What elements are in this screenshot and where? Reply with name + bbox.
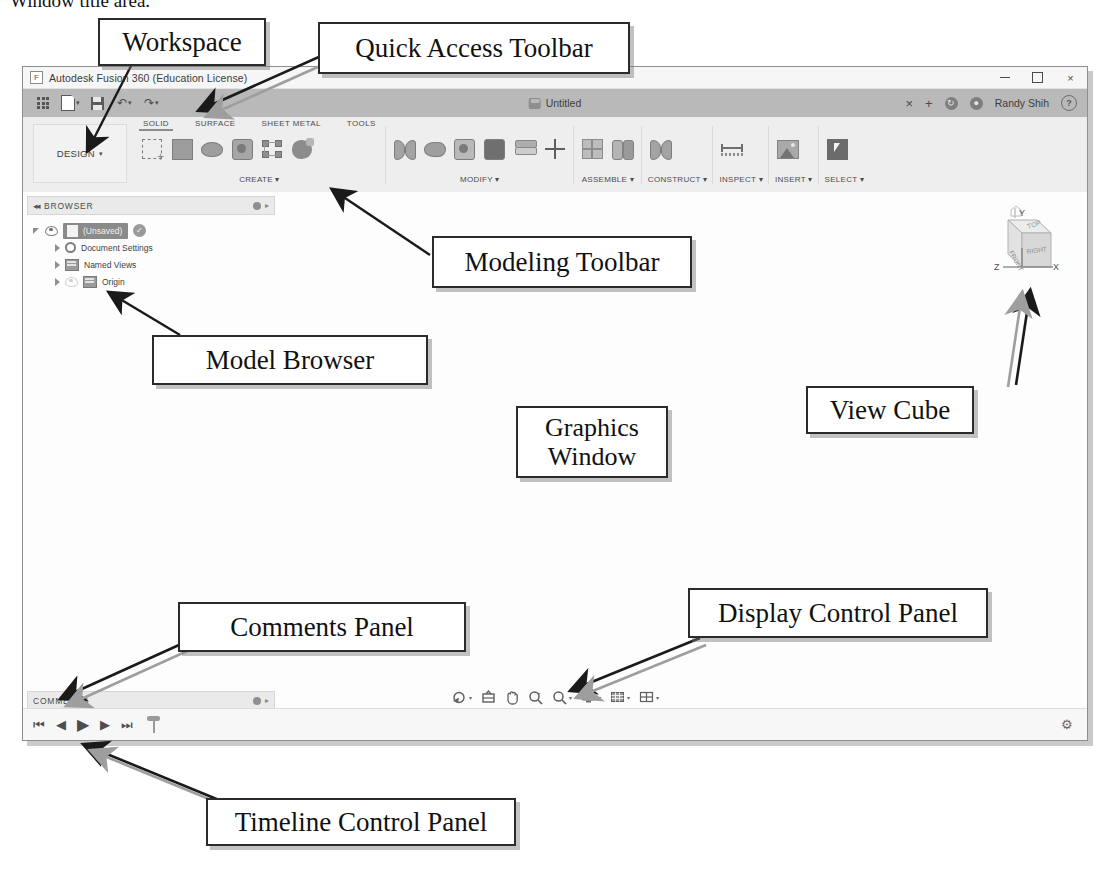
zoom-window-icon[interactable]: + <box>528 690 543 705</box>
expand-arrow-icon[interactable] <box>33 228 39 234</box>
page-cut-heading: Window title area. <box>10 0 150 12</box>
tab-close-icon[interactable]: × <box>906 96 914 111</box>
tab-solid[interactable]: SOLID <box>139 119 173 131</box>
tree-node-document-settings[interactable]: Document Settings <box>33 239 275 256</box>
callout-workspace: Workspace <box>98 18 266 66</box>
tree-node-root[interactable]: (Unsaved) ✓ <box>33 222 275 239</box>
svg-text:+: + <box>537 690 541 696</box>
tree-node-origin[interactable]: Origin <box>33 273 275 290</box>
undo-icon[interactable]: ↶▾ <box>112 93 136 113</box>
extrude-icon[interactable] <box>169 136 195 162</box>
browser-options-icon[interactable] <box>253 202 261 210</box>
pan-icon[interactable] <box>505 690 519 705</box>
assemble-group-label[interactable]: ASSEMBLE ▾ <box>580 172 636 184</box>
app-grid-icon[interactable] <box>31 93 55 113</box>
press-pull-icon[interactable] <box>392 136 418 162</box>
joint-icon[interactable] <box>610 136 636 162</box>
step-back-button[interactable]: ◀ <box>56 717 66 732</box>
new-component-icon[interactable] <box>580 136 606 162</box>
browser-resize-icon[interactable]: ▸ <box>265 201 270 210</box>
folder-icon <box>83 276 97 288</box>
play-button[interactable]: ▶ <box>77 715 89 734</box>
notifications-icon[interactable]: ● <box>970 97 983 110</box>
workspace-label: DESIGN <box>57 148 95 159</box>
root-chip[interactable]: (Unsaved) <box>63 223 128 239</box>
document-tab[interactable]: Untitled <box>529 97 582 109</box>
revolve-icon[interactable] <box>229 136 255 162</box>
move-copy-icon[interactable] <box>542 136 568 162</box>
display-settings-icon[interactable]: ▾ <box>581 690 601 704</box>
select-group-label[interactable]: SELECT ▾ <box>825 172 865 184</box>
look-at-icon[interactable] <box>481 690 496 704</box>
tab-tools[interactable]: TOOLS <box>343 119 380 128</box>
job-status-icon[interactable]: ↻ <box>945 97 958 110</box>
help-icon[interactable]: ? <box>1061 95 1077 111</box>
sketch-create-icon[interactable] <box>139 136 165 162</box>
timeline-marker[interactable] <box>147 716 160 733</box>
browser-tree: (Unsaved) ✓ Document Settings Named View… <box>27 215 275 290</box>
sculpt-form-icon[interactable] <box>289 136 315 162</box>
maximize-button[interactable] <box>1021 67 1054 88</box>
document-tab-label: Untitled <box>546 97 582 109</box>
timeline-settings-gear-icon[interactable]: ⚙ <box>1061 717 1073 732</box>
qat-buttons: ▾ ↶▾ ↷▾ <box>23 93 163 113</box>
new-document-icon[interactable]: ▾ <box>58 93 82 113</box>
insert-image-icon[interactable] <box>775 136 801 162</box>
shell-icon[interactable] <box>452 136 478 162</box>
folder-icon <box>65 259 79 271</box>
viewports-icon[interactable]: ▾ <box>639 690 659 704</box>
visibility-eye-icon[interactable] <box>65 277 78 287</box>
browser-header[interactable]: ◂◂ BROWSER ▸ <box>27 196 275 215</box>
view-cube[interactable]: TOP FRONT RIGHT Z X Y <box>963 204 1059 300</box>
tab-surface[interactable]: SURFACE <box>191 119 240 128</box>
expand-arrow-icon[interactable] <box>55 278 60 286</box>
redo-icon[interactable]: ↷▾ <box>139 93 163 113</box>
create-group-label[interactable]: CREATE ▾ <box>139 172 380 184</box>
offset-plane-icon[interactable] <box>648 136 674 162</box>
callout-graphics-window-line2: Window <box>548 442 637 471</box>
window-controls: × <box>988 67 1087 88</box>
step-forward-button[interactable]: ▶ <box>100 717 110 732</box>
tree-node-origin-label: Origin <box>102 277 125 287</box>
pattern-nodes-icon[interactable] <box>259 136 285 162</box>
construct-icons <box>648 134 708 172</box>
visibility-eye-icon[interactable] <box>45 226 58 236</box>
window-title: Autodesk Fusion 360 (Education License) <box>49 72 247 84</box>
fillet-icon[interactable] <box>422 136 448 162</box>
user-name[interactable]: Randy Shih <box>995 97 1049 109</box>
callout-quick-access-toolbar: Quick Access Toolbar <box>318 22 630 74</box>
loft-icon[interactable] <box>199 136 225 162</box>
callout-display-control-panel: Display Control Panel <box>688 588 988 638</box>
modify-group-label[interactable]: MODIFY ▾ <box>392 172 568 184</box>
close-button[interactable]: × <box>1054 67 1087 88</box>
expand-arrow-icon[interactable] <box>55 244 60 252</box>
insert-group-label[interactable]: INSERT ▾ <box>775 172 813 184</box>
callout-graphics-window: Graphics Window <box>516 406 668 478</box>
modify-icons <box>392 134 568 172</box>
ribbon-groups: SOLID SURFACE SHEET METAL TOOLS CREATE ▾ <box>133 117 1087 193</box>
ribbon-group-assemble: ASSEMBLE ▾ <box>574 117 642 193</box>
go-to-beginning-button[interactable]: ⏮ <box>33 717 45 733</box>
svg-text:Y: Y <box>1019 208 1025 218</box>
tree-node-named-views[interactable]: Named Views <box>33 256 275 273</box>
orbit-icon[interactable]: ▾ <box>451 690 472 705</box>
zoom-icon[interactable]: ▾ <box>552 690 572 705</box>
select-icons <box>825 134 865 172</box>
combine-icon[interactable] <box>482 136 508 162</box>
grid-snap-icon[interactable]: ▾ <box>610 690 630 704</box>
construct-group-label[interactable]: CONSTRUCT ▾ <box>648 172 708 184</box>
expand-arrow-icon[interactable] <box>55 261 60 269</box>
save-icon[interactable] <box>85 93 109 113</box>
tab-sheet-metal[interactable]: SHEET METAL <box>258 119 325 128</box>
measure-icon[interactable] <box>719 136 745 162</box>
inspect-group-label[interactable]: INSPECT ▾ <box>719 172 762 184</box>
select-cursor-icon[interactable] <box>825 136 851 162</box>
split-icon[interactable] <box>512 136 538 162</box>
go-to-end-button[interactable]: ⏭ <box>121 717 133 733</box>
svg-text:Z: Z <box>994 262 1000 272</box>
collapse-browser-icon[interactable]: ◂◂ <box>33 201 39 211</box>
minimize-button[interactable] <box>988 67 1021 88</box>
callout-view-cube: View Cube <box>806 386 974 434</box>
workspace-selector[interactable]: DESIGN ▾ <box>33 124 127 183</box>
new-tab-icon[interactable]: + <box>925 96 933 111</box>
